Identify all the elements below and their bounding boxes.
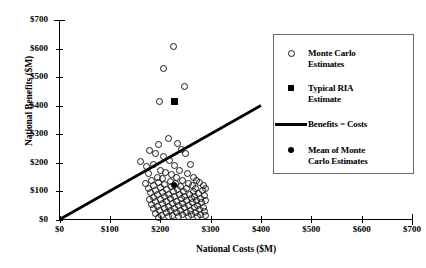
monte-carlo-point <box>190 188 197 195</box>
monte-carlo-point <box>152 150 159 157</box>
x-tick-label: $700 <box>389 224 426 234</box>
monte-carlo-point <box>150 194 157 201</box>
y-tick-label: $100 <box>0 185 48 195</box>
filled-dot-icon <box>274 145 308 153</box>
monte-carlo-point <box>168 183 175 190</box>
x-tick <box>160 216 161 223</box>
monte-carlo-point <box>191 193 198 200</box>
monte-carlo-point <box>150 161 157 168</box>
monte-carlo-point <box>173 198 180 205</box>
monte-carlo-point <box>174 140 181 147</box>
monte-carlo-point <box>169 212 176 219</box>
legend-label-typical-ria: Typical RIA Estimate <box>308 83 353 105</box>
x-tick <box>110 216 111 223</box>
open-circle-icon <box>274 48 308 57</box>
monte-carlo-point <box>156 98 163 105</box>
x-tick-label: $0 <box>37 224 83 234</box>
y-tick <box>56 106 63 107</box>
x-tick <box>261 216 262 223</box>
monte-carlo-point <box>163 209 170 216</box>
x-tick-label: $300 <box>188 224 234 234</box>
monte-carlo-point <box>184 170 191 177</box>
legend-item-benefits-equals-costs: Benefits = Costs <box>274 119 413 130</box>
monte-carlo-point <box>173 174 180 181</box>
y-tick-label: $200 <box>0 157 48 167</box>
line-swatch-icon <box>274 123 308 126</box>
monte-carlo-point <box>152 198 159 205</box>
monte-carlo-point <box>165 135 172 142</box>
monte-carlo-point <box>161 181 168 188</box>
monte-carlo-point <box>155 141 162 148</box>
monte-carlo-point <box>177 207 184 214</box>
monte-carlo-point <box>199 187 206 194</box>
y-tick-label: $300 <box>0 128 48 138</box>
monte-carlo-point <box>145 170 152 177</box>
monte-carlo-point <box>179 200 186 207</box>
monte-carlo-point <box>181 193 188 200</box>
monte-carlo-point <box>159 175 166 182</box>
legend-item-typical-ria: Typical RIA Estimate <box>274 83 413 105</box>
x-tick <box>60 216 61 223</box>
monte-carlo-point <box>181 83 188 90</box>
monte-carlo-point <box>165 191 172 198</box>
monte-carlo-point <box>157 167 164 174</box>
monte-carlo-point <box>143 163 150 170</box>
monte-carlo-point <box>178 146 185 153</box>
monte-carlo-point <box>174 186 181 193</box>
monte-carlo-point <box>202 197 209 204</box>
monte-carlo-point <box>147 189 154 196</box>
x-tick-label: $200 <box>137 224 183 234</box>
monte-carlo-point <box>154 174 161 181</box>
monte-carlo-point <box>179 177 186 184</box>
monte-carlo-point <box>197 211 204 218</box>
y-tick <box>56 77 63 78</box>
monte-carlo-point <box>188 195 195 202</box>
monte-carlo-point <box>159 200 166 207</box>
monte-carlo-point <box>189 199 196 206</box>
monte-carlo-point <box>175 202 182 209</box>
monte-carlo-point <box>169 200 176 207</box>
monte-carlo-point <box>194 202 201 209</box>
monte-carlo-point <box>137 158 144 165</box>
monte-carlo-point <box>202 185 209 192</box>
monte-carlo-point <box>159 189 166 196</box>
monte-carlo-point <box>178 195 185 202</box>
y-tick-label: $700 <box>0 14 48 24</box>
monte-carlo-point <box>187 207 194 214</box>
monte-carlo-point <box>168 171 175 178</box>
monte-carlo-point <box>197 195 204 202</box>
monte-carlo-point <box>154 191 161 198</box>
monte-carlo-point <box>148 201 155 208</box>
monte-carlo-point <box>167 207 174 214</box>
monte-carlo-point <box>196 179 203 186</box>
monte-carlo-point <box>167 178 174 185</box>
y-axis-line <box>59 20 60 220</box>
monte-carlo-point <box>193 177 200 184</box>
x-tick <box>311 216 312 223</box>
monte-carlo-point <box>176 167 183 174</box>
y-tick <box>56 191 63 192</box>
monte-carlo-point <box>196 206 203 213</box>
legend-label-monte-carlo: Monte Carlo Estimates <box>308 48 356 70</box>
y-tick-label: $600 <box>0 43 48 53</box>
monte-carlo-point <box>181 204 188 211</box>
legend-label-benefits-equals-costs: Benefits = Costs <box>308 119 367 130</box>
monte-carlo-point <box>192 185 199 192</box>
chart-legend: Monte Carlo Estimates Typical RIA Estima… <box>273 34 414 174</box>
monte-carlo-point <box>190 174 197 181</box>
monte-carlo-point <box>157 196 164 203</box>
monte-carlo-point <box>201 208 208 215</box>
x-tick-label: $400 <box>238 224 284 234</box>
x-tick <box>362 216 363 223</box>
monte-carlo-point <box>198 199 205 206</box>
monte-carlo-point <box>183 197 190 204</box>
monte-carlo-point <box>171 205 178 212</box>
monte-carlo-point <box>183 209 190 216</box>
monte-carlo-point <box>172 180 179 187</box>
x-axis-title: National Costs ($M) <box>60 244 412 254</box>
monte-carlo-point <box>161 205 168 212</box>
monte-carlo-point <box>150 182 157 189</box>
monte-carlo-point <box>201 192 208 199</box>
monte-carlo-point <box>183 185 190 192</box>
x-tick-label: $500 <box>288 224 334 234</box>
